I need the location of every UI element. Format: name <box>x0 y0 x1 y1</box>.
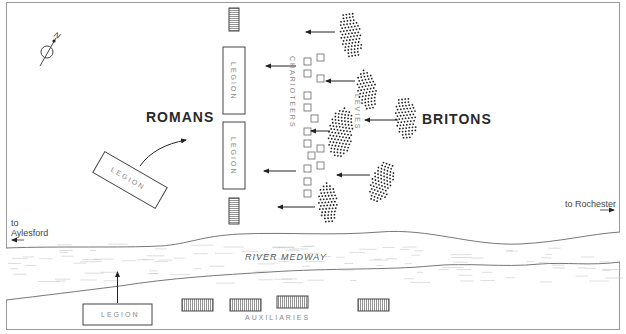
chariot-square <box>308 152 315 159</box>
briton-cluster <box>325 106 356 159</box>
chariots-group <box>304 54 324 197</box>
chariot-square <box>304 92 311 99</box>
river-label: RIVER MEDWAY <box>245 252 327 262</box>
chariot-square <box>317 75 324 82</box>
battle-diagram: ROMANS BRITONS N LEGION LEGION LEGION LE… <box>0 0 626 334</box>
charioteers-label: CHARIOTEERS <box>289 56 296 129</box>
chariot-square <box>304 70 311 77</box>
legion-south-label: LEGION <box>101 311 139 318</box>
chariot-square <box>317 145 324 152</box>
north-arrow-icon <box>40 38 56 66</box>
briton-cluster <box>317 181 339 222</box>
chariot-square <box>304 104 311 111</box>
briton-cluster <box>337 12 364 58</box>
briton-cluster <box>393 97 418 139</box>
chariot-square <box>317 54 324 61</box>
chariot-square <box>304 178 311 185</box>
chariot-square <box>304 165 311 172</box>
aylesford-to-label: to <box>11 218 19 228</box>
reserve-advance-arrow <box>140 140 186 166</box>
auxiliary-unit-north <box>229 8 239 31</box>
romans-label: ROMANS <box>146 109 214 125</box>
diagram-canvas <box>0 0 626 334</box>
chariot-square <box>304 140 311 147</box>
levies-label: LEVIES <box>354 94 361 131</box>
legion-top-label: LEGION <box>230 62 237 100</box>
chariot-square <box>304 190 311 197</box>
auxiliaries-label: AUXILIARIES <box>245 314 310 321</box>
auxiliaries-group <box>182 296 389 311</box>
rochester-label: to Rochester <box>565 199 616 209</box>
british-forces-group <box>317 12 419 223</box>
auxiliary-unit-south <box>229 198 239 224</box>
chariot-square <box>317 162 324 169</box>
aylesford-label: Aylesford <box>11 228 48 238</box>
river-medway <box>6 231 623 300</box>
chariot-square <box>304 128 311 135</box>
chariot-square <box>311 115 318 122</box>
chariot-square <box>304 58 311 65</box>
briton-cluster <box>365 160 399 205</box>
britons-label: BRITONS <box>422 111 492 127</box>
legion-middle-label: LEGION <box>230 137 237 175</box>
